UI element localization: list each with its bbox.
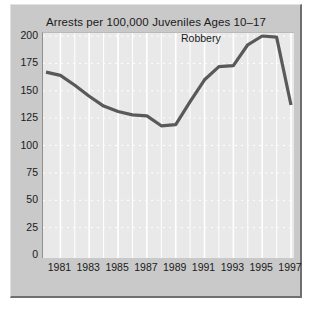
y-tick-label: 25 [26, 221, 38, 233]
x-tick-label: 1993 [221, 261, 244, 273]
y-tick-label: 175 [20, 56, 38, 68]
y-tick-label: 75 [26, 166, 38, 178]
plot-area [42, 32, 294, 258]
y-tick-label: 0 [32, 248, 38, 260]
series-annotation-robbery: Robbery [181, 32, 221, 44]
chart-canvas [43, 33, 294, 258]
y-axis-tick-labels: 0255075100125150175200 [11, 32, 40, 257]
x-tick-label: 1989 [163, 261, 186, 273]
chart-figure: Arrests per 100,000 Juveniles Ages 10–17… [0, 0, 312, 311]
chart-title: Arrests per 100,000 Juveniles Ages 10–17 [11, 16, 301, 28]
series-line-robbery [46, 36, 291, 126]
horizontal-gridlines [43, 36, 294, 228]
x-axis-tick-labels: 198119831985198719891991199319951997 [42, 261, 293, 279]
y-tick-label: 100 [20, 139, 38, 151]
x-tick-label: 1991 [192, 261, 215, 273]
y-tick-label: 50 [26, 193, 38, 205]
chart-card: Arrests per 100,000 Juveniles Ages 10–17… [10, 4, 302, 298]
x-tick-label: 1985 [105, 261, 128, 273]
x-tick-label: 1987 [134, 261, 157, 273]
x-tick-label: 1997 [278, 261, 301, 273]
y-tick-label: 150 [20, 84, 38, 96]
x-tick-label: 1981 [48, 261, 71, 273]
x-tick-label: 1983 [77, 261, 100, 273]
y-tick-label: 125 [20, 111, 38, 123]
x-tick-label: 1995 [250, 261, 273, 273]
y-tick-label: 200 [20, 29, 38, 41]
